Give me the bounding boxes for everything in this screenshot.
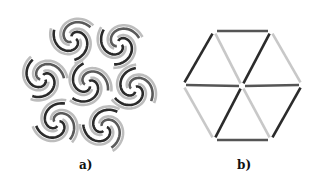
swirl-motif <box>23 57 67 101</box>
hexagon-graph-figure <box>160 0 317 184</box>
hexagon-edge-lower-left <box>184 88 212 138</box>
hexagon-edge-lower-right <box>272 88 300 138</box>
swirl-motif <box>80 106 123 151</box>
spoke-bottom-left <box>215 89 240 138</box>
swirl-motif <box>98 25 143 68</box>
panel-b-caption: b) <box>237 158 251 172</box>
panel-b-hexagon-graph: b) <box>160 0 317 184</box>
spoke-top-right <box>243 34 269 84</box>
swirl-motif <box>70 60 112 105</box>
panel-a-swirl-tiling: a) <box>0 0 160 184</box>
spoke-right <box>245 85 299 86</box>
swirl-motif <box>50 19 93 64</box>
panel-a-caption: a) <box>79 158 92 172</box>
swirl-tiling-figure <box>0 0 160 184</box>
spoke-bottom-right <box>243 89 269 138</box>
swirl-arc <box>73 63 90 91</box>
hexagon-edge-upper-right <box>272 34 300 83</box>
swirl-motif <box>112 65 156 109</box>
swirl-motif <box>33 100 78 142</box>
swirl-arc <box>36 121 64 137</box>
spoke-top-left <box>215 34 240 84</box>
hexagon-edge-upper-left <box>184 34 212 83</box>
spoke-left <box>186 85 239 86</box>
